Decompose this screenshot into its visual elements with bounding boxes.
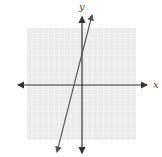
y-axis-label: y (79, 1, 85, 12)
coordinate-plane (0, 0, 162, 157)
x-axis-label: x (153, 79, 159, 90)
